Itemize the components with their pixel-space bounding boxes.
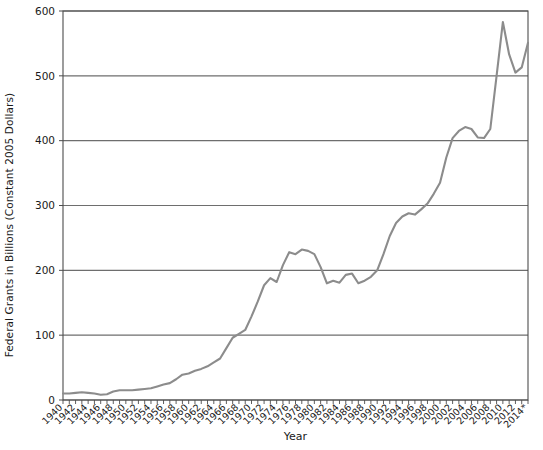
svg-text:400: 400 [35, 134, 55, 146]
svg-text:200: 200 [35, 264, 55, 276]
svg-text:300: 300 [35, 199, 55, 211]
x-axis-tick-labels: 1940194219441946194819501952195419561958… [40, 401, 530, 429]
y-gridlines [63, 11, 528, 400]
data-series-line [63, 22, 528, 395]
line-chart-plot: 0100200300400500600 19401942194419461948… [0, 0, 543, 450]
svg-text:500: 500 [35, 70, 55, 82]
x-axis-title: Year [63, 430, 528, 443]
chart-container: Federal Grants in Billions (Constant 200… [0, 0, 543, 450]
svg-text:100: 100 [35, 329, 55, 341]
svg-text:600: 600 [35, 5, 55, 17]
y-axis-ticks: 0100200300400500600 [35, 5, 63, 406]
